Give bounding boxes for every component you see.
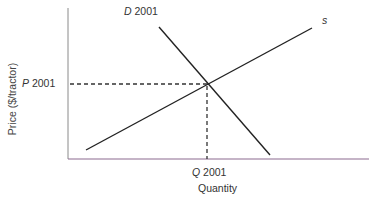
quantity-year: 2001 bbox=[200, 166, 226, 178]
equilibrium-price-label: P 2001 bbox=[22, 77, 55, 89]
price-year: 2001 bbox=[29, 77, 55, 89]
price-symbol: P bbox=[22, 77, 29, 89]
equilibrium-quantity-label: Q 2001 bbox=[192, 166, 226, 178]
supply-symbol: s bbox=[322, 14, 327, 26]
demand-curve bbox=[159, 27, 270, 155]
supply-curve-label: s bbox=[322, 14, 327, 26]
supply-demand-chart bbox=[0, 0, 369, 199]
demand-curve-label: D 2001 bbox=[124, 5, 158, 17]
supply-curve bbox=[86, 28, 312, 150]
y-axis-label: Price ($/tractor) bbox=[6, 63, 18, 135]
x-axis-label: Quantity bbox=[198, 182, 237, 194]
demand-year: 2001 bbox=[132, 5, 158, 17]
quantity-symbol: Q bbox=[192, 166, 200, 178]
demand-symbol: D bbox=[124, 5, 132, 17]
